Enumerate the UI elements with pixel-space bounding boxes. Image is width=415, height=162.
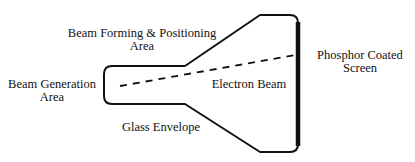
label-beam-generation: Beam Generation Area: [4, 78, 100, 104]
label-electron-beam-text: Electron Beam: [204, 78, 294, 91]
label-phosphor-screen: Phosphor Coated Screen: [308, 49, 412, 75]
label-phosphor-line2: Screen: [308, 62, 412, 75]
label-glass-envelope-text: Glass Envelope: [116, 121, 206, 134]
label-beam-generation-line2: Area: [4, 91, 100, 104]
label-beam-forming-line2: Area: [52, 40, 232, 53]
label-glass-envelope: Glass Envelope: [116, 121, 206, 134]
label-electron-beam: Electron Beam: [204, 78, 294, 91]
label-beam-forming: Beam Forming & Positioning Area: [52, 27, 232, 53]
